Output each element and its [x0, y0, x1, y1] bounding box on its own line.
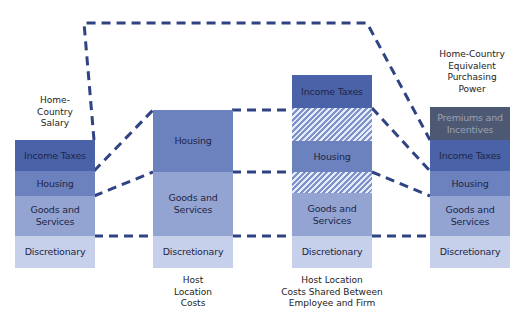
column-caption-host-location-costs: Host Location Costs [150, 275, 236, 310]
column-host-costs-shared: Income Taxes Housing Goods andServices D… [292, 75, 372, 268]
segment-housing: Housing [153, 110, 233, 172]
segment-housing: Housing [15, 171, 95, 196]
segment-label: Discretionary [25, 246, 86, 258]
connector-top-envelope [84, 23, 430, 140]
column-caption-host-costs-shared: Host Location Costs Shared Between Emplo… [270, 275, 394, 310]
segment-label: Goods and [445, 204, 494, 216]
caption-line: Home- [14, 95, 96, 107]
segment-goods-and-services: Goods andServices [292, 193, 372, 236]
segment-label: Discretionary [163, 246, 224, 258]
segment-label: Housing [313, 151, 350, 163]
segment-discretionary: Discretionary [430, 236, 510, 268]
segment-goods-and-services: Goods andServices [430, 196, 510, 236]
segment-discretionary: Discretionary [15, 236, 95, 268]
segment-shared-hatch [292, 172, 372, 193]
column-home-country-salary: Income Taxes Housing Goods andServices D… [15, 140, 95, 268]
column-host-location-costs: Housing Goods andServices Discretionary [153, 110, 233, 268]
segment-housing: Housing [430, 171, 510, 196]
segment-label: Incentives [447, 124, 494, 136]
caption-line: Location [150, 287, 236, 299]
segment-label: Income Taxes [301, 86, 363, 98]
segment-label: Goods and [30, 204, 79, 216]
segment-label: Services [313, 215, 351, 227]
caption-line: Home-Country [426, 49, 518, 61]
segment-label: Housing [451, 178, 488, 190]
caption-line: Salary [14, 118, 96, 130]
caption-line: Equivalent [426, 61, 518, 73]
segment-label: Discretionary [302, 246, 363, 258]
segment-label: Goods and [307, 203, 356, 215]
caption-line: Costs [150, 298, 236, 310]
segment-label: Services [174, 204, 212, 216]
segment-discretionary: Discretionary [153, 236, 233, 268]
segment-discretionary: Discretionary [292, 236, 372, 268]
segment-label: Income Taxes [24, 150, 86, 162]
caption-line: Host [150, 275, 236, 287]
segment-label: Services [451, 216, 489, 228]
segment-label: Discretionary [440, 246, 501, 258]
segment-label: Income Taxes [439, 150, 501, 162]
column-caption-home-country-salary: Home- Country Salary [14, 95, 96, 130]
column-caption-equivalent-purchasing-power: Home-Country Equivalent Purchasing Power [426, 49, 518, 95]
segment-income-taxes: Income Taxes [430, 140, 510, 171]
caption-line: Purchasing [426, 72, 518, 84]
segment-label: Services [36, 216, 74, 228]
caption-line: Power [426, 84, 518, 96]
connector-c3-c4-goods-top [372, 172, 430, 196]
caption-line: Host Location [270, 275, 394, 287]
connector-c1-c2-housing-top [94, 110, 153, 171]
segment-label: Goods and [168, 192, 217, 204]
connector-c1-c2-goods-top [94, 172, 153, 196]
segment-goods-and-services: Goods andServices [153, 172, 233, 236]
segment-income-taxes: Income Taxes [15, 140, 95, 171]
segment-premiums-and-incentives: Premiums andIncentives [430, 107, 510, 140]
segment-label: Premiums and [437, 112, 503, 124]
segment-label: Housing [36, 178, 73, 190]
connector-c3-c4-housing-top [372, 108, 430, 171]
caption-line: Costs Shared Between [270, 287, 394, 299]
column-equivalent-purchasing-power: Premiums andIncentives Income Taxes Hous… [430, 107, 510, 268]
segment-housing: Housing [292, 141, 372, 172]
segment-income-taxes: Income Taxes [292, 75, 372, 108]
segment-goods-and-services: Goods andServices [15, 196, 95, 236]
segment-shared-hatch [292, 108, 372, 141]
caption-line: Employee and Firm [270, 298, 394, 310]
segment-label: Housing [174, 135, 211, 147]
caption-line: Country [14, 107, 96, 119]
